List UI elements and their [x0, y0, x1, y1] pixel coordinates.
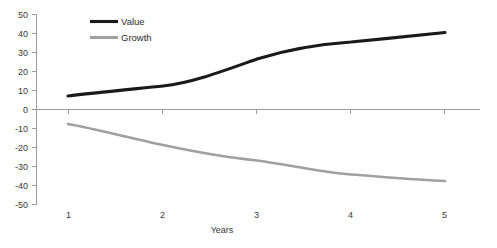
x-tick-label-1: 1 [66, 210, 71, 220]
y-tick-label-0: 0 [23, 105, 28, 115]
y-tick-label-minus50: -50 [15, 200, 28, 210]
y-tick-label-minus40: -40 [15, 181, 28, 191]
y-tick-label-30: 30 [18, 48, 28, 58]
y-tick-label-10: 10 [18, 86, 28, 96]
line-chart: 50 40 30 20 10 0 -10 -20 -30 -40 -50 [0, 0, 497, 248]
x-tick-label-2: 2 [160, 210, 165, 220]
legend-label-growth: Growth [121, 32, 152, 43]
x-tick-label-5: 5 [442, 210, 447, 220]
y-tick-label-40: 40 [18, 29, 28, 39]
x-tick-label-3: 3 [254, 210, 259, 220]
legend-label-value: Value [121, 16, 145, 27]
y-tick-label-minus30: -30 [15, 162, 28, 172]
chart-canvas: 50 40 30 20 10 0 -10 -20 -30 -40 -50 [0, 0, 497, 248]
y-tick-label-minus20: -20 [15, 143, 28, 153]
y-tick-label-minus10: -10 [15, 124, 28, 134]
y-tick-label-50: 50 [18, 10, 28, 20]
x-tick-label-4: 4 [348, 210, 353, 220]
y-tick-label-20: 20 [18, 67, 28, 77]
x-axis-title: Years [211, 225, 234, 235]
